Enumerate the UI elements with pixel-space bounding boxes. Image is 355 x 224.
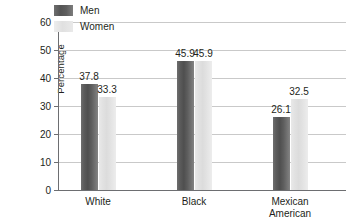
legend-swatch-women-icon	[54, 21, 73, 32]
bar-value-label: 32.5	[289, 86, 308, 97]
bar-value-label: 45.9	[193, 48, 212, 59]
bar-women: 32.5	[291, 99, 308, 190]
x-axis-category-label: White	[85, 196, 111, 208]
legend-item-women: Women	[54, 18, 114, 34]
y-axis-tick-label: 30	[40, 101, 51, 112]
legend-label-men: Men	[80, 5, 99, 16]
bar-women: 33.3	[99, 97, 116, 190]
x-axis-line	[58, 190, 346, 191]
y-axis-tick	[54, 106, 58, 107]
y-axis-tick-label: 50	[40, 45, 51, 56]
legend-label-women: Women	[80, 21, 114, 32]
y-axis-tick	[54, 162, 58, 163]
legend-item-men: Men	[54, 2, 114, 18]
bar-men: 26.1	[273, 117, 290, 190]
y-axis-tick	[54, 190, 58, 191]
bar-men: 37.8	[81, 84, 98, 190]
y-axis-tick-label: 60	[40, 17, 51, 28]
y-axis-tick-label: 20	[40, 129, 51, 140]
plot-area: 0102030405060 37.833.345.945.926.132.5 W…	[58, 22, 346, 190]
x-axis-category-label: Black	[182, 196, 206, 208]
bar-value-label: 37.8	[79, 71, 98, 82]
bar-value-label: 33.3	[97, 84, 116, 95]
y-axis-tick	[54, 134, 58, 135]
bar-chart: Percentage 0102030405060 37.833.345.945.…	[0, 0, 355, 224]
y-axis-tick-label: 40	[40, 73, 51, 84]
x-axis-category-label: Mexican American	[269, 196, 311, 220]
y-axis-tick-label: 10	[40, 157, 51, 168]
legend-swatch-men-icon	[54, 5, 73, 16]
y-axis-tick	[54, 50, 58, 51]
bar-men: 45.9	[177, 61, 194, 190]
y-axis-tick-label: 0	[45, 185, 51, 196]
legend: Men Women	[54, 2, 114, 34]
bar-value-label: 26.1	[271, 104, 290, 115]
y-axis-tick	[54, 78, 58, 79]
bar-women: 45.9	[195, 61, 212, 190]
bar-value-label: 45.9	[175, 48, 194, 59]
